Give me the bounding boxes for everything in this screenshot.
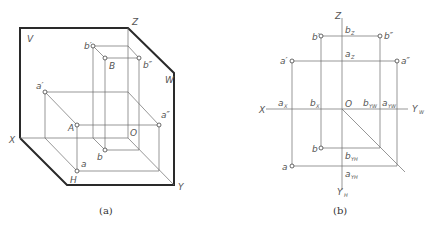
point-a-prime <box>43 90 47 94</box>
svg-text:Y: Y <box>337 187 344 197</box>
figure-b-orthographic-projection: Z X O Y W Y H b′ b″ a′ a″ b a b Z a Z a … <box>258 11 425 216</box>
label-a: a <box>81 159 87 169</box>
label-bYH: b YH <box>345 151 358 162</box>
label-origin-O: O <box>130 128 137 138</box>
y-axis <box>128 138 174 185</box>
label-axis-X: X <box>258 105 266 115</box>
proj-line <box>93 138 105 150</box>
svg-text:YW: YW <box>388 103 397 109</box>
label-b-double-prime: b″ <box>143 60 153 70</box>
svg-text:Z: Z <box>350 54 355 60</box>
figure-a-three-plane-pictorial: V Z W X H Y O a′ A a a″ b′ B b b″ (a) <box>8 17 185 216</box>
svg-text:W: W <box>419 109 425 115</box>
svg-text:YW: YW <box>369 103 378 109</box>
label-b-prime: b′ <box>84 41 92 51</box>
label-b-prime: b′ <box>312 32 320 42</box>
label-bX: b X <box>310 98 320 109</box>
label-a: a <box>282 162 288 172</box>
label-A: A <box>67 123 74 133</box>
label-aYW: a YW <box>382 98 397 109</box>
projection-figure: V Z W X H Y O a′ A a a″ b′ B b b″ (a) <box>0 0 428 226</box>
svg-text:a: a <box>278 98 284 108</box>
label-a-double-prime: a″ <box>161 110 171 120</box>
point-A <box>75 123 79 127</box>
point-a-prime <box>290 59 294 63</box>
label-aX: a X <box>278 98 288 109</box>
point-B <box>103 56 107 60</box>
label-a-prime: a′ <box>36 81 44 91</box>
label-axis-YH: Y H <box>337 187 348 198</box>
proj-line <box>45 138 77 171</box>
label-axis-X: X <box>8 135 16 145</box>
label-axis-YW: Y W <box>412 104 425 115</box>
point-b-double-prime <box>378 34 382 38</box>
svg-text:Z: Z <box>350 30 355 36</box>
label-bZ: b Z <box>345 25 355 36</box>
svg-text:a: a <box>345 169 351 179</box>
label-aZ: a Z <box>345 49 355 60</box>
45-degree-line <box>342 109 405 172</box>
point-a-double-prime <box>395 59 399 63</box>
point-a-double-prime <box>157 123 161 127</box>
label-axis-Y: Y <box>178 182 185 192</box>
label-a-double-prime: a″ <box>401 56 411 66</box>
caption-a: (a) <box>99 205 113 216</box>
point-a <box>290 164 294 168</box>
point-b-double-prime <box>137 56 141 60</box>
svg-text:H: H <box>344 192 348 198</box>
label-plane-V: V <box>27 34 34 44</box>
label-origin-O: O <box>345 99 352 109</box>
proj-line <box>128 92 159 125</box>
point-b <box>319 146 323 150</box>
label-bYW: b YW <box>363 98 378 109</box>
label-b-double-prime: b″ <box>384 31 394 41</box>
label-b: b <box>312 144 318 154</box>
label-a-prime: a′ <box>280 56 288 66</box>
point-a <box>75 169 79 173</box>
label-B: B <box>109 61 115 71</box>
label-axis-Z: Z <box>131 17 139 27</box>
svg-text:X: X <box>283 103 288 109</box>
label-b: b <box>97 152 103 162</box>
point-b <box>103 148 107 152</box>
svg-text:a: a <box>345 49 351 59</box>
svg-text:YH: YH <box>351 156 358 162</box>
svg-text:Y: Y <box>412 104 419 114</box>
caption-b: (b) <box>333 205 347 216</box>
label-plane-H: H <box>70 175 77 185</box>
svg-text:a: a <box>382 98 388 108</box>
proj-line <box>128 46 139 58</box>
proj-line <box>93 46 105 58</box>
svg-text:YH: YH <box>351 174 358 180</box>
label-aYH: a YH <box>345 169 358 180</box>
label-plane-W: W <box>165 75 175 85</box>
label-axis-Z: Z <box>334 11 342 21</box>
proj-line <box>45 92 77 125</box>
svg-text:X: X <box>315 103 320 109</box>
